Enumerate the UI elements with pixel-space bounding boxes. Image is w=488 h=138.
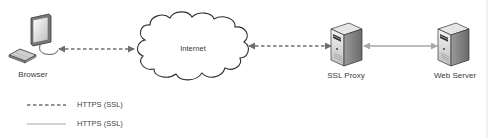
server-tower-icon (331, 23, 362, 66)
node-label-web-server: Web Server (434, 71, 476, 80)
network-diagram: Browser Internet SSL Proxy Web Server HT… (0, 0, 488, 138)
node-label-ssl-proxy: SSL Proxy (327, 71, 365, 80)
node-label-browser: Browser (18, 70, 47, 79)
diagram-canvas (0, 0, 488, 138)
server-tower-icon (438, 23, 469, 66)
legend-label-solid: HTTPS (SSL) (77, 119, 123, 128)
node-label-internet: Internet (180, 44, 205, 53)
legend-label-dashed: HTTPS (SSL) (77, 100, 123, 109)
desktop-computer-icon (9, 14, 58, 63)
